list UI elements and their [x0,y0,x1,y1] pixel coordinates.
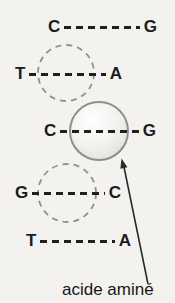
base-pair-row-4: G C [15,184,121,202]
base-letter-right: A [110,65,122,83]
base-letter-left: T [15,65,25,83]
hydrogen-bond-dashes [60,130,138,133]
arrow-icon [120,159,148,285]
base-letter-left: C [48,18,60,36]
base-letter-right: C [109,184,121,202]
base-letter-right: G [143,122,156,140]
base-letter-right: A [119,232,131,250]
base-letter-left: T [26,232,36,250]
base-letter-left: G [15,184,28,202]
base-pair-row-3: C G [44,122,156,140]
hydrogen-bond-dashes [40,240,114,243]
base-letter-right: G [144,18,157,36]
base-pair-row-1: C G [48,18,157,36]
diagram-graphics [0,0,175,303]
dna-amino-acid-diagram: C G T A C G G C T A acide aminé [0,0,175,303]
base-pair-row-5: T A [26,232,131,250]
amino-acid-label: acide aminé [62,280,154,300]
hydrogen-bond-dashes [29,73,105,76]
hydrogen-bond-dashes [64,26,139,29]
hydrogen-bond-dashes [32,192,104,195]
base-letter-left: C [44,122,56,140]
base-pair-row-2: T A [15,65,122,83]
